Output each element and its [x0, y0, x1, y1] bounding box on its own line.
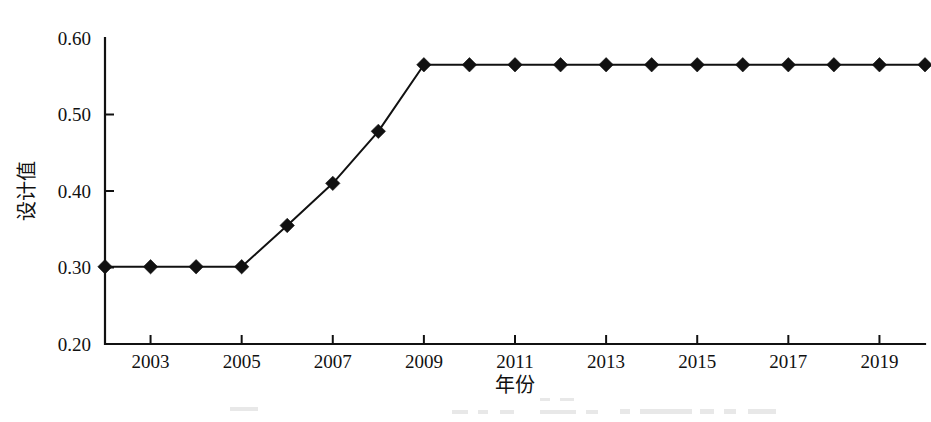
y-axis-tick-marks: [105, 115, 114, 268]
x-tick-label: 2003: [132, 351, 170, 372]
y-tick-label: 0.20: [58, 334, 91, 355]
data-point-marker: [690, 58, 704, 72]
x-axis-tick-marks: [151, 335, 880, 344]
x-tick-label: 2017: [769, 351, 807, 372]
y-tick-label: 0.60: [58, 28, 91, 49]
x-tick-label: 2019: [860, 351, 898, 372]
data-point-marker: [462, 58, 476, 72]
x-tick-label: 2005: [223, 351, 261, 372]
data-point-marker: [781, 58, 795, 72]
series-markers-design-value: [98, 58, 931, 274]
chart-figure: 0.200.300.400.500.60 2003200520072009201…: [0, 0, 931, 422]
x-axis-tick-labels: 200320052007200920112013201520172019: [132, 351, 899, 372]
data-point-marker: [417, 58, 431, 72]
series-line-design-value: [105, 65, 925, 267]
y-axis-title: 设计值: [15, 161, 39, 221]
x-tick-label: 2007: [314, 351, 352, 372]
data-point-marker: [918, 58, 931, 72]
data-point-marker: [508, 58, 522, 72]
data-point-marker: [644, 58, 658, 72]
data-point-marker: [553, 58, 567, 72]
y-axis-tick-labels: 0.200.300.400.500.60: [58, 28, 91, 355]
axis-spine: [105, 38, 925, 344]
data-point-marker: [827, 58, 841, 72]
x-axis-title: 年份: [495, 373, 535, 397]
data-point-marker: [98, 260, 112, 274]
y-tick-label: 0.50: [58, 104, 91, 125]
data-point-marker: [736, 58, 750, 72]
data-point-marker: [872, 58, 886, 72]
x-tick-label: 2015: [678, 351, 716, 372]
data-point-marker: [189, 260, 203, 274]
y-tick-label: 0.40: [58, 181, 91, 202]
x-tick-label: 2011: [496, 351, 533, 372]
x-tick-label: 2009: [405, 351, 443, 372]
x-tick-label: 2013: [587, 351, 625, 372]
line-chart: 0.200.300.400.500.60 2003200520072009201…: [0, 0, 931, 422]
y-tick-label: 0.30: [58, 257, 91, 278]
data-point-marker: [599, 58, 613, 72]
data-point-marker: [143, 260, 157, 274]
